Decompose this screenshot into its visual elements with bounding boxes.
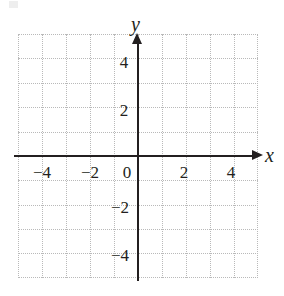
x-tick-label-2: 2: [180, 164, 189, 181]
y-tick-label-neg2: −2: [111, 199, 129, 216]
y-axis-label: y: [131, 14, 140, 34]
coordinate-plane-figure: y x −4 −2 0 2 4 4 2 −2 −4: [0, 0, 284, 296]
x-tick-label-zero: 0: [123, 164, 132, 181]
x-axis-line: [14, 155, 254, 157]
x-axis-arrow-icon: [252, 150, 263, 160]
x-axis-label: x: [265, 145, 274, 165]
y-axis-line: [137, 42, 139, 281]
scan-artifact-mark: [9, 1, 18, 8]
x-tick-label-4: 4: [227, 164, 236, 181]
y-tick-label-2: 2: [120, 102, 129, 119]
y-tick-label-neg4: −4: [111, 247, 129, 264]
x-tick-label-neg4: −4: [33, 164, 51, 181]
y-tick-label-4: 4: [120, 54, 129, 71]
x-tick-label-neg2: −2: [81, 164, 99, 181]
